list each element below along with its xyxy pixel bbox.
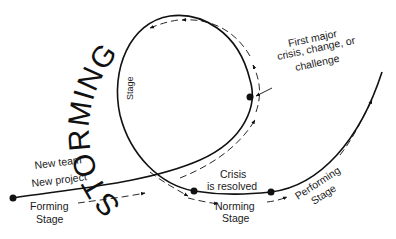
forming-label-1: Forming	[30, 200, 69, 212]
team-development-diagram: STORMING Stage New team New project Form…	[0, 0, 396, 239]
norming-label-1: Norming	[215, 200, 255, 212]
first-crisis-dot	[247, 94, 254, 101]
forming-start-dot	[10, 195, 17, 202]
resolved-label-2: is resolved	[207, 180, 257, 192]
resolved-label-1: Crisis	[220, 168, 246, 180]
storming-stage-label: Stage	[125, 76, 135, 100]
norming-end-dot	[268, 189, 275, 196]
norming-label-2: Stage	[222, 212, 250, 224]
storming-title: STORMING	[62, 36, 126, 223]
crisis-pointer-arrow	[256, 88, 272, 96]
forming-label-2: Stage	[36, 213, 64, 225]
crisis-resolved-dot	[191, 188, 198, 195]
